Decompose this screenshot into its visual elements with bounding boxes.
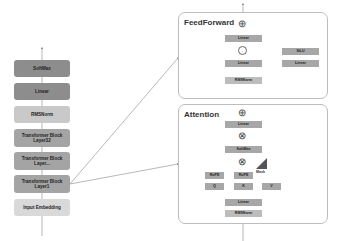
block-label-line2: Layer...	[34, 161, 50, 166]
ff-linear-top: Linear	[225, 35, 262, 42]
matmul-icon: ⊗	[238, 131, 246, 141]
attn-rope-q: RoPE	[205, 172, 224, 179]
attn-rope-k: RoPE	[234, 172, 253, 179]
softmax-block: SoftMax	[14, 60, 70, 77]
transformer-block-layer32: Transformer BlockLayer32	[14, 129, 70, 147]
multiply-dot-icon: ·	[238, 46, 247, 55]
ff-linear-right: Linear	[282, 60, 319, 67]
add-icon: ⊕	[238, 108, 246, 118]
block-label-line2: Layer1	[35, 184, 50, 189]
transformer-block-layer1: Transformer BlockLayer1	[14, 175, 70, 193]
ff-linear-left: Linear	[225, 60, 262, 67]
mask-label: Mask	[256, 170, 265, 174]
attention-title: Attention	[184, 110, 219, 119]
add-icon: ⊕	[238, 19, 246, 29]
ff-rmsnorm: RMSNorm	[225, 77, 262, 84]
attn-v: V	[262, 183, 281, 190]
rmsnorm-label: RMSNorm	[31, 112, 53, 117]
matmul-icon: ⊗	[238, 157, 246, 167]
feedforward-title: FeedForward	[184, 18, 234, 27]
mask-triangle-icon	[256, 158, 267, 169]
attn-linear-top: Linear	[225, 121, 262, 128]
ff-silu: SiLU	[282, 48, 319, 55]
block-label-line2: Layer32	[33, 138, 50, 143]
linear-label: Linear	[35, 89, 49, 94]
input-embedding-label: Input Embedding	[23, 205, 61, 210]
input-embedding-block: Input Embedding	[14, 199, 70, 216]
attn-rmsnorm: RMSNorm	[225, 210, 262, 217]
softmax-label: SoftMax	[33, 66, 51, 71]
linear-block: Linear	[14, 83, 70, 100]
attn-softmax: SoftMax	[225, 146, 262, 153]
attn-linear-bottom: Linear	[225, 199, 262, 206]
rmsnorm-block: RMSNorm	[14, 106, 70, 123]
attn-q: Q	[205, 183, 224, 190]
transformer-block-layer-ellipsis: Transformer BlockLayer...	[14, 152, 70, 170]
attn-k: K	[234, 183, 253, 190]
